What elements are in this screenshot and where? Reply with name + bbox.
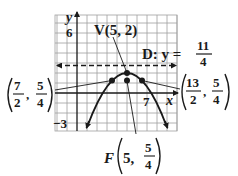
left-y-numerator: 5 bbox=[37, 78, 44, 93]
right-y-denominator: 4 bbox=[213, 92, 220, 107]
left-x-denominator: 2 bbox=[14, 95, 21, 110]
vertex-point bbox=[124, 70, 130, 76]
right-comma: , bbox=[203, 84, 206, 99]
left-point-label: 7 2 , 5 4 bbox=[8, 78, 52, 112]
left-comma: , bbox=[26, 87, 29, 102]
focus-letter: F bbox=[103, 150, 114, 166]
focus-denominator: 4 bbox=[145, 157, 152, 172]
latus-left-point bbox=[109, 78, 115, 84]
parabola-diagram: y 6 7 x −3 V(5, 2) D: y = 11 4 7 2 , 5 4… bbox=[0, 0, 238, 176]
left-y-denominator: 4 bbox=[37, 95, 44, 110]
directrix-denominator: 4 bbox=[200, 54, 207, 69]
focus-label: F 5, 5 4 bbox=[103, 138, 160, 174]
directrix-label: D: y = bbox=[142, 46, 181, 62]
vertex-label: V(5, 2) bbox=[94, 22, 137, 39]
right-x-denominator: 2 bbox=[190, 92, 197, 107]
left-x-numerator: 7 bbox=[14, 78, 21, 93]
focus-point bbox=[124, 78, 130, 84]
latus-right-point bbox=[139, 78, 145, 84]
right-y-numerator: 5 bbox=[213, 75, 220, 90]
directrix-numerator: 11 bbox=[197, 38, 209, 53]
x-tick-7: 7 bbox=[143, 94, 150, 109]
y-axis-label: y bbox=[64, 10, 73, 25]
right-x-numerator: 13 bbox=[186, 75, 200, 90]
focus-x: 5, bbox=[123, 150, 135, 166]
focus-numerator: 5 bbox=[145, 140, 152, 155]
y-tick-6: 6 bbox=[66, 25, 73, 40]
y-tick-neg3: −3 bbox=[53, 116, 67, 131]
x-axis-label: x bbox=[165, 93, 173, 108]
right-point-label: 13 2 , 5 4 bbox=[182, 74, 229, 110]
